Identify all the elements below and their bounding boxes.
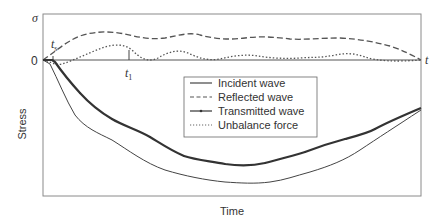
legend-label-transmitted: Transmitted wave (218, 105, 304, 117)
sigma-label: σ (32, 11, 39, 25)
legend-label-reflected: Reflected wave (218, 91, 293, 103)
t1-subscript: 1 (128, 73, 132, 82)
ts-subscript: s (54, 44, 57, 53)
reflected-wave-line (43, 32, 421, 60)
y-axis-label: Stress (16, 108, 28, 140)
legend-label-unbalance: Unbalance force (218, 119, 298, 131)
legend-label-incident: Incident wave (218, 77, 285, 89)
time-axis-symbol: t (425, 53, 429, 67)
stress-time-chart: Incident wave Reflected wave Transmitted… (0, 0, 440, 223)
unbalance-force-line (43, 45, 421, 64)
legend: Incident wave Reflected wave Transmitted… (184, 77, 317, 137)
x-axis-label: Time (220, 205, 244, 217)
origin-label: 0 (31, 54, 38, 68)
legend-swatch-transmitted-marker (200, 110, 203, 113)
t1-label: t1 (125, 66, 132, 82)
ts-label: ts (51, 37, 57, 53)
